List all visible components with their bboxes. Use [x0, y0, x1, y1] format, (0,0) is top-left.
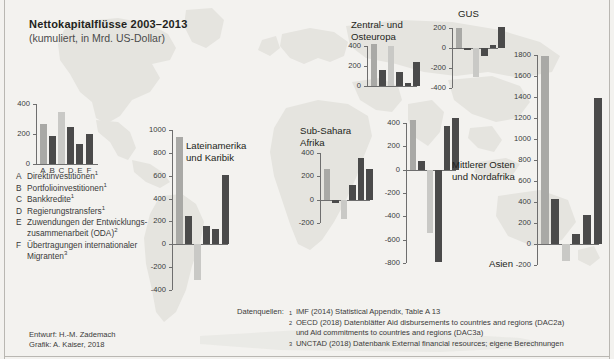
y-axis-tick	[33, 134, 36, 135]
legend-item-key: A	[16, 171, 27, 182]
legend-item-key: D	[16, 206, 27, 217]
legend-item-key: E	[16, 217, 27, 239]
bar-e	[76, 144, 83, 164]
bar-a	[176, 137, 183, 244]
y-axis-tick	[534, 160, 537, 161]
data-source-number: 1	[289, 307, 296, 318]
category-label-a: A	[39, 166, 48, 175]
y-axis-tick	[317, 176, 320, 177]
y-axis-tick	[403, 216, 406, 217]
data-source-item: 2OECD (2018) Datenblätter Aid disburseme…	[289, 318, 564, 329]
bar-e	[444, 126, 451, 170]
y-axis-tick-label: -400	[151, 285, 166, 294]
data-source-text-cont: und Aid commitments to countries and reg…	[289, 328, 564, 338]
page-title: Nettokapitalflüsse 2003–2013	[29, 18, 187, 30]
y-axis-tick	[534, 118, 537, 119]
y-axis-tick-label: 800	[153, 148, 166, 157]
y-axis-tick-label: 1000	[514, 134, 531, 143]
chart-mittlerer-osten-und-nordafrika: -800-600-400-2000200400Mittlerer Ostenun…	[406, 123, 456, 263]
category-label-b: B	[48, 166, 57, 175]
y-axis-tick-label: 200	[301, 171, 314, 180]
data-source-number: 2	[289, 318, 296, 329]
y-axis-tick	[449, 48, 452, 49]
frame-border-right	[609, 0, 610, 359]
bar-c	[473, 48, 480, 77]
y-axis-tick	[403, 170, 406, 171]
y-axis-tick	[403, 193, 406, 194]
legend-item-b: BPortfolioinvestitionen1	[16, 183, 147, 194]
bar-f	[594, 98, 602, 244]
y-axis-tick	[169, 290, 172, 291]
bar-a	[410, 120, 417, 170]
chart-sub-sahara-afrika: -2000200400Sub-SaharaAfrika	[320, 153, 370, 223]
y-axis-tick	[403, 240, 406, 241]
y-axis-tick-label: -200	[516, 260, 531, 269]
chart-title-zentral-und-osteuropa: Zentral- undOsteuropa	[351, 19, 403, 43]
legend-item-label: Bankkredite1	[27, 194, 147, 205]
bar-a	[324, 169, 331, 200]
y-axis-tick-label: 800	[518, 155, 531, 164]
y-axis-tick-label: 0	[162, 239, 166, 248]
legend-item-label: Portfolioinvestitionen1	[27, 183, 147, 194]
legend-list: ADirektinvestitionen1BPortfolioinvestiti…	[16, 171, 147, 263]
chart-lateinamerika: -400-20002004006008001000Lateinamerikaun…	[172, 130, 228, 290]
chart-title-gus: GUS	[458, 8, 479, 20]
y-axis-tick-label: -800	[385, 258, 400, 267]
y-axis-tick-label: 400	[518, 197, 531, 206]
y-axis-tick	[403, 123, 406, 124]
y-axis-tick	[449, 68, 452, 69]
credits-line-1: Entwurf: H.-M. Zademach	[29, 330, 116, 340]
data-sources-label: Datenquellen:	[237, 307, 289, 349]
y-axis-tick-label: 200	[387, 141, 400, 150]
chart-zentral-und-osteuropa: 0200400Zentral- undOsteuropa	[367, 46, 417, 86]
bar-a	[456, 28, 463, 48]
y-axis-tick-label: 1800	[514, 50, 531, 59]
chart-gus: -400-2000200GUS	[452, 28, 498, 88]
y-axis-tick	[33, 104, 36, 105]
data-source-text: UNCTAD (2018) Datenbank External financi…	[296, 339, 564, 350]
y-axis-tick-label: 1200	[514, 113, 531, 122]
bar-f	[366, 169, 373, 199]
bar-e	[490, 45, 497, 48]
bar-c	[194, 244, 201, 279]
bar-d	[396, 72, 403, 87]
y-axis-tick	[169, 176, 172, 177]
data-source-number: 3	[289, 339, 296, 350]
y-axis-tick	[317, 200, 320, 201]
y-axis	[172, 130, 173, 290]
legend-item-label: Übertragungen internationalerMigranten3	[27, 240, 147, 262]
zero-axis	[36, 164, 98, 165]
y-axis-tick	[33, 164, 36, 165]
infographic-root: Nettokapitalflüsse 2003–2013 (kumuliert,…	[0, 0, 614, 359]
y-axis-tick-label: -200	[385, 188, 400, 197]
y-axis-tick	[534, 265, 537, 266]
y-axis-tick	[169, 221, 172, 222]
bar-d	[349, 185, 356, 200]
page-subtitle: (kumuliert, in Mrd. US-Dollar)	[29, 32, 165, 44]
credits-line-2: Grafik: A. Kaiser, 2018	[29, 340, 116, 350]
y-axis-tick	[534, 244, 537, 245]
bar-d	[203, 226, 210, 244]
category-label-e: E	[75, 166, 84, 175]
y-axis-tick	[534, 76, 537, 77]
y-axis-tick-label: -400	[431, 83, 446, 92]
bar-b	[379, 70, 386, 87]
y-axis-tick	[169, 153, 172, 154]
legend-item-e: EZuwendungen der Entwicklungs-zusammenar…	[16, 217, 147, 239]
category-label-f: F	[85, 166, 94, 175]
y-axis-tick	[364, 86, 367, 87]
bar-a	[371, 44, 378, 87]
bar-c	[341, 200, 348, 219]
legend-item-key: C	[16, 194, 27, 205]
legend-item-d: DRegierungstransfers1	[16, 206, 147, 217]
y-axis-tick	[169, 244, 172, 245]
bar-a	[541, 56, 549, 244]
data-source-item: 3UNCTAD (2018) Datenbank External financ…	[289, 339, 564, 350]
bar-a	[40, 124, 47, 164]
y-axis	[537, 55, 538, 265]
bar-b	[185, 216, 192, 245]
y-axis-tick-label: -600	[385, 235, 400, 244]
y-axis-tick-label: 0	[396, 165, 400, 174]
bar-d	[67, 127, 74, 164]
y-axis	[406, 123, 407, 263]
